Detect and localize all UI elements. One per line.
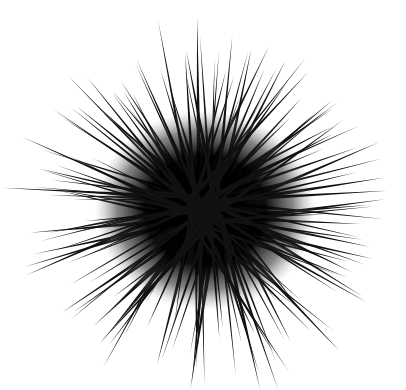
sea-urchin-image [0,0,406,390]
sea-urchin-photo [0,0,406,390]
